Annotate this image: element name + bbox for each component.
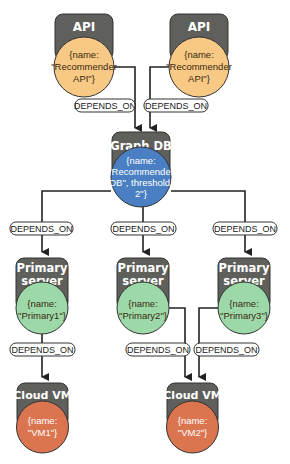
node-prop-line: {name: bbox=[184, 49, 214, 60]
node-prop-line: DB", threshold: bbox=[109, 177, 173, 188]
node-type-label: Cloud VM bbox=[13, 389, 71, 402]
node-prop-line: {name: bbox=[229, 298, 259, 309]
svg-text:DEPENDS_ON: DEPENDS_ON bbox=[11, 345, 73, 355]
node-prop-line: {name: bbox=[126, 155, 156, 166]
node-type-label: API bbox=[73, 20, 96, 34]
svg-text:DEPENDS_ON: DEPENDS_ON bbox=[112, 224, 174, 234]
node-primary-server-1[interactable]: Primary server {name: "Primary1"} bbox=[16, 258, 68, 334]
node-prop-line: {name: bbox=[27, 298, 57, 309]
edge-label-graphdb-primary1: DEPENDS_ON bbox=[10, 222, 73, 235]
edge-label-graphdb-primary2: DEPENDS_ON bbox=[111, 222, 176, 235]
node-prop-line: "Primary1"} bbox=[18, 310, 66, 321]
node-prop-line: "Recommender bbox=[51, 61, 117, 72]
node-primary-server-3[interactable]: Primary server {name: "Primary3"} bbox=[218, 258, 270, 334]
node-prop-line: "Primary2"} bbox=[119, 310, 167, 321]
svg-text:DEPENDS_ON: DEPENDS_ON bbox=[10, 224, 72, 234]
svg-text:DEPENDS_ON: DEPENDS_ON bbox=[195, 345, 257, 355]
node-api-2[interactable]: API {name: "Recommender API"} bbox=[166, 14, 232, 97]
node-primary-server-2[interactable]: Primary server {name: "Primary2"} bbox=[117, 258, 169, 334]
node-prop-line: {name: bbox=[28, 415, 58, 426]
edge-label-graphdb-primary3: DEPENDS_ON bbox=[213, 222, 277, 235]
node-prop-line: {name: bbox=[178, 415, 208, 426]
svg-text:DEPENDS_ON: DEPENDS_ON bbox=[145, 101, 207, 111]
edge-api1-graphdb bbox=[114, 67, 135, 128]
dependency-diagram: API {name: "Recommender API"} API {name:… bbox=[0, 0, 290, 464]
node-type-label: Primary bbox=[17, 261, 68, 275]
svg-text:DEPENDS_ON: DEPENDS_ON bbox=[214, 224, 276, 234]
node-graph-db[interactable]: Graph DB {name: "Recommender DB", thresh… bbox=[108, 132, 174, 207]
node-type-label: Primary bbox=[219, 261, 270, 275]
node-prop-line: "Primary3"} bbox=[220, 310, 268, 321]
node-api-1[interactable]: API {name: "Recommender API"} bbox=[51, 14, 117, 97]
node-cloud-vm-2[interactable]: Cloud VM {name: "VM2"} bbox=[163, 383, 221, 453]
svg-text:DEPENDS_ON: DEPENDS_ON bbox=[127, 345, 189, 355]
node-prop-line: API"} bbox=[188, 73, 210, 84]
edge-label-api2-graphdb: DEPENDS_ON bbox=[144, 99, 208, 112]
node-prop-line: {name: bbox=[128, 298, 158, 309]
edge-label-api1-graphdb: DEPENDS_ON bbox=[74, 99, 136, 112]
edge-label-primary1-vm1: DEPENDS_ON bbox=[10, 343, 75, 356]
edge-api2-graphdb bbox=[150, 67, 169, 128]
node-prop-line: "Recommender bbox=[166, 61, 232, 72]
edge-label-primary3-vm2: DEPENDS_ON bbox=[194, 343, 259, 356]
node-prop-line: "Recommender bbox=[108, 166, 174, 177]
node-prop-line: "VM2"} bbox=[178, 427, 207, 438]
node-prop-line: "VM1"} bbox=[28, 427, 57, 438]
node-type-label: API bbox=[188, 20, 211, 34]
svg-text:DEPENDS_ON: DEPENDS_ON bbox=[74, 101, 136, 111]
node-cloud-vm-1[interactable]: Cloud VM {name: "VM1"} bbox=[13, 383, 71, 453]
node-type-label: Primary bbox=[118, 261, 169, 275]
node-prop-line: 2"} bbox=[135, 188, 147, 199]
edge-label-primary2-vm2: DEPENDS_ON bbox=[126, 343, 190, 356]
node-prop-line: {name: bbox=[69, 49, 99, 60]
node-prop-line: API"} bbox=[73, 73, 95, 84]
node-type-label: Cloud VM bbox=[163, 389, 221, 402]
